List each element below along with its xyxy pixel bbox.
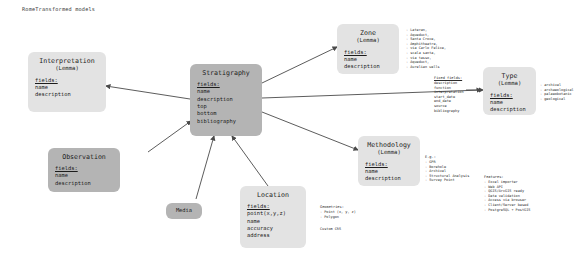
node-methodology-field: description bbox=[365, 175, 413, 182]
annotation-custom-crs: Custom CRS bbox=[320, 227, 341, 232]
methodology-example-item: - Survey Point bbox=[425, 178, 469, 183]
node-stratigraphy-field: name bbox=[197, 88, 255, 95]
edge-observation-stratigraphy bbox=[148, 121, 191, 152]
node-observation[interactable]: Observation fields: name description bbox=[48, 148, 120, 192]
node-interpretation-field: description bbox=[35, 91, 99, 98]
node-stratigraphy-title: Stratigraphy bbox=[197, 69, 255, 77]
node-stratigraphy-field: bibliography bbox=[197, 118, 255, 125]
node-stratigraphy-field: top bbox=[197, 103, 255, 110]
node-type-title: Type bbox=[490, 72, 529, 80]
node-type-fields-label: fields: bbox=[490, 91, 529, 99]
node-zone[interactable]: Zone (Lemma) fields: name description bbox=[337, 24, 399, 74]
node-methodology-fields-label: fields: bbox=[365, 160, 413, 168]
node-stratigraphy-fields-label: fields: bbox=[197, 80, 255, 88]
node-zone-subtitle: (Lemma) bbox=[344, 37, 392, 45]
edge-stratigraphy-methodology bbox=[262, 112, 358, 150]
node-zone-field: description bbox=[344, 63, 392, 70]
node-location-field: name bbox=[247, 218, 299, 225]
node-interpretation-subtitle: (Lemma) bbox=[35, 65, 99, 73]
node-type-subtitle: (Lemma) bbox=[490, 80, 529, 88]
node-interpretation-title: Interpretation bbox=[35, 57, 99, 65]
node-methodology-subtitle: (Lemma) bbox=[365, 149, 413, 157]
node-observation-field: name bbox=[55, 172, 113, 179]
node-interpretation-field: name bbox=[35, 84, 99, 91]
node-media-title: Media bbox=[171, 207, 197, 214]
diagram-canvas: RomeTransformed models Interpretation (L… bbox=[0, 0, 579, 265]
node-location-field: accuracy bbox=[247, 225, 299, 232]
node-location[interactable]: Location fields: point(x,y,z) name accur… bbox=[240, 186, 306, 248]
features-item: - PostgreSQL + PostGIS bbox=[484, 208, 530, 213]
annotation-features: Features: - Excel importer - Web API - Q… bbox=[484, 175, 530, 212]
node-observation-fields-label: fields: bbox=[55, 164, 113, 172]
node-location-field: point(x,y,z) bbox=[247, 210, 299, 217]
features-item: - Client/Server based bbox=[484, 203, 530, 208]
geometries-item: - Point (x, y, z) bbox=[320, 210, 356, 215]
edge-location-stratigraphy bbox=[232, 136, 268, 186]
annotation-methodology-examples: E.g.: - GPR - Borehole - Archival - Stru… bbox=[425, 155, 469, 183]
node-type[interactable]: Type (Lemma) fields: name description bbox=[483, 67, 536, 115]
page-title: RomeTransformed models bbox=[22, 6, 95, 12]
node-location-title: Location bbox=[247, 191, 299, 199]
node-type-field: name bbox=[490, 99, 529, 106]
annotation-geometries: Geometries: - Point (x, y, z) - Polygon bbox=[320, 205, 356, 219]
node-zone-field: name bbox=[344, 56, 392, 63]
zone-example-item: - Aurelian walls bbox=[406, 65, 446, 70]
node-location-field: address bbox=[247, 232, 299, 239]
edge-stratigraphy-interpretation bbox=[106, 86, 190, 99]
node-stratigraphy-field: description bbox=[197, 96, 255, 103]
type-example-item: - geological bbox=[540, 97, 574, 102]
node-zone-fields-label: fields: bbox=[344, 48, 392, 56]
node-stratigraphy[interactable]: Stratigraphy fields: name description to… bbox=[190, 64, 262, 136]
node-methodology-title: Methodology bbox=[365, 141, 413, 149]
node-interpretation[interactable]: Interpretation (Lemma) fields: name desc… bbox=[28, 52, 106, 112]
node-media[interactable]: Media bbox=[166, 203, 202, 219]
fixed-fields-item: bibliography bbox=[434, 109, 464, 114]
node-zone-title: Zone bbox=[344, 29, 392, 37]
annotation-zone-examples: - Lateran, - Aqueduct, - Santa Croce, - … bbox=[406, 28, 446, 69]
node-methodology[interactable]: Methodology (Lemma) fields: name descrip… bbox=[358, 136, 420, 186]
geometries-item: - Polygon bbox=[320, 215, 356, 220]
node-methodology-field: name bbox=[365, 168, 413, 175]
edge-media-stratigraphy bbox=[196, 136, 214, 199]
annotation-type-examples: - archival - archaeological - palaeobota… bbox=[540, 83, 574, 101]
node-observation-title: Observation bbox=[55, 153, 113, 161]
edge-stratigraphy-zone bbox=[262, 47, 337, 83]
annotation-fixed-fields: Fixed fields: description function inter… bbox=[434, 76, 464, 113]
node-observation-field: description bbox=[55, 180, 113, 187]
node-interpretation-fields-label: fields: bbox=[35, 76, 99, 84]
node-stratigraphy-field: bottom bbox=[197, 110, 255, 117]
node-type-field: description bbox=[490, 106, 529, 113]
node-location-fields-label: fields: bbox=[247, 202, 299, 210]
